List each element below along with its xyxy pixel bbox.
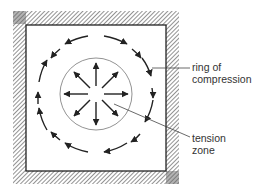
- diagram-canvas: [0, 0, 261, 192]
- label-line: tension: [192, 132, 226, 144]
- label-line: ring of: [192, 61, 252, 73]
- ring-of-compression-label: ring of compression: [192, 61, 252, 85]
- label-line: compression: [192, 73, 252, 85]
- label-line: zone: [192, 144, 226, 156]
- tension-zone-label: tension zone: [192, 132, 226, 156]
